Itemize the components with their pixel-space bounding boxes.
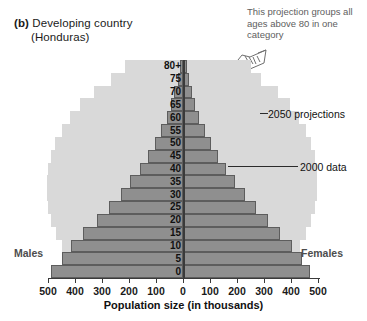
annotation-2000-data: 2000 data [300, 161, 347, 173]
age-label-30: 30 [170, 190, 183, 200]
x-tick-0 [48, 278, 49, 283]
x-tick-label-9: 400 [282, 285, 300, 297]
x-tick-label-10: 500 [309, 285, 327, 297]
x-tick-3 [129, 278, 130, 283]
plot-area: 5004003002001000100200300400500 05101520… [48, 60, 320, 278]
females-label: Females [301, 247, 343, 259]
population-pyramid-figure: (b) Developing country (Honduras) This p… [0, 0, 367, 321]
figure-title-text: Developing country [32, 17, 132, 29]
x-tick-4 [156, 278, 157, 283]
age-label-35: 35 [170, 177, 183, 187]
x-axis-caption: Population size (in thousands) [0, 299, 367, 311]
projection-note: This projection groups all ages above 80… [247, 6, 365, 41]
males-label: Males [14, 247, 43, 259]
x-tick-5 [183, 278, 184, 283]
age-label-70: 70 [170, 87, 183, 97]
age-label-10: 10 [170, 241, 183, 251]
panel-tag: (b) [14, 17, 29, 29]
x-tick-label-8: 300 [255, 285, 273, 297]
x-tick-7 [237, 278, 238, 283]
figure-title: (b) Developing country (Honduras) [14, 16, 133, 44]
x-tick-label-6: 100 [201, 285, 219, 297]
age-label-0: 0 [175, 267, 183, 277]
age-label-75: 75 [170, 74, 183, 84]
x-tick-label-5: 0 [180, 285, 186, 297]
age-label-40: 40 [170, 164, 183, 174]
x-tick-label-1: 400 [66, 285, 84, 297]
age-label-60: 60 [170, 113, 183, 123]
age-label-15: 15 [170, 228, 183, 238]
age-label-50: 50 [170, 138, 183, 148]
age-label-55: 55 [170, 126, 183, 136]
x-tick-2 [102, 278, 103, 283]
age-label-80+: 80+ [164, 61, 183, 71]
x-tick-10 [318, 278, 319, 283]
figure-subtitle: (Honduras) [31, 30, 133, 44]
x-tick-8 [264, 278, 265, 283]
x-tick-1 [75, 278, 76, 283]
x-tick-6 [210, 278, 211, 283]
age-label-25: 25 [170, 202, 183, 212]
leader-line-2050 [260, 113, 268, 114]
x-tick-label-2: 300 [93, 285, 111, 297]
age-label-65: 65 [170, 100, 183, 110]
age-label-45: 45 [170, 151, 183, 161]
annotation-2050-projections: 2050 projections [268, 108, 345, 120]
x-tick-label-0: 500 [39, 285, 57, 297]
age-label-20: 20 [170, 215, 183, 225]
age-group-labels: 05101520253035404550556065707580+ [48, 60, 320, 278]
x-tick-label-4: 100 [147, 285, 165, 297]
age-label-5: 5 [175, 254, 183, 264]
x-tick-label-7: 200 [228, 285, 246, 297]
x-tick-label-3: 200 [120, 285, 138, 297]
x-axis-line [48, 278, 320, 279]
leader-line-2000 [228, 166, 298, 167]
x-tick-9 [291, 278, 292, 283]
